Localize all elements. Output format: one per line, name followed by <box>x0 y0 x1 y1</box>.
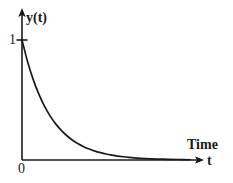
x-axis-label-symbol: t <box>207 154 212 168</box>
y-axis-label: y(t) <box>26 11 47 25</box>
x-axis-label-time: Time <box>187 138 218 152</box>
y-tick-label-one: 1 <box>9 33 16 47</box>
plot-canvas <box>0 0 233 183</box>
exponential-decay-figure: y(t) 1 0 Time t <box>0 0 233 183</box>
origin-label: 0 <box>18 162 25 176</box>
exponential-decay-curve <box>22 40 190 160</box>
